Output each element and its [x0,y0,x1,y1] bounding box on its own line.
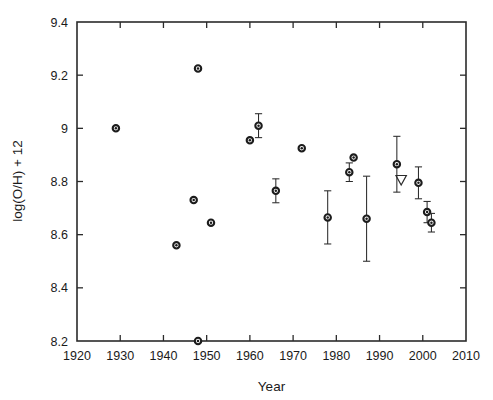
data-point [346,163,353,182]
x-tick-label: 1940 [150,349,178,363]
x-tick-label: 1920 [63,349,91,363]
y-tick-label: 8.2 [51,335,68,349]
circle-marker-center-dot [365,217,368,220]
data-point [113,125,119,131]
y-tick-label: 8.8 [51,175,68,189]
data-point [324,191,331,244]
circle-marker-center-dot [197,340,200,343]
data-point [255,114,262,138]
data-point [299,145,305,151]
circle-marker-center-dot [175,244,178,247]
circle-marker-center-dot [326,216,329,219]
circle-marker-center-dot [192,199,195,202]
data-point [191,197,197,203]
data-point [428,213,435,232]
circle-marker-center-dot [210,221,213,224]
circle-marker-center-dot [430,221,433,224]
circle-marker-center-dot [115,127,118,130]
scatter-chart-figure: 8.28.48.68.899.29.4 19201930194019501960… [0,0,493,400]
data-point [173,242,179,248]
y-tick-labels: 8.28.48.68.899.29.4 [51,16,68,349]
x-tick-label: 1970 [279,349,307,363]
x-tick-label: 1960 [236,349,264,363]
y-axis-title: log(O/H) + 12 [10,140,25,221]
y-tick-marks [77,75,466,288]
upper-limit-triangle-marker [396,175,406,185]
data-point [195,65,201,71]
data-point [272,179,279,203]
x-axis-title: Year [258,379,286,394]
circle-marker-center-dot [249,139,252,142]
data-point [393,136,400,192]
data-point [208,220,214,226]
x-tick-label: 1930 [106,349,134,363]
data-point [415,167,422,199]
circle-marker-center-dot [352,156,355,159]
plot-frame [77,22,466,341]
data-point [363,176,370,261]
y-tick-label: 8.6 [51,228,68,242]
x-tick-label: 2000 [409,349,437,363]
x-tick-label: 1950 [193,349,221,363]
data-point [247,137,253,143]
circle-marker-center-dot [257,124,260,127]
circle-marker-center-dot [301,147,304,150]
y-tick-label: 9.2 [51,69,68,83]
circle-marker-center-dot [348,171,351,174]
circle-marker-center-dot [197,67,200,70]
x-tick-label: 2010 [452,349,480,363]
chart-canvas: 8.28.48.68.899.29.4 19201930194019501960… [0,0,493,400]
x-tick-marks [120,22,423,341]
data-point [350,154,356,160]
circle-marker-center-dot [396,163,399,166]
x-tick-label: 1990 [366,349,394,363]
y-tick-label: 8.4 [51,281,68,295]
data-point [396,175,406,185]
y-tick-label: 9 [61,122,68,136]
data-point [195,338,201,344]
data-points-layer [113,65,435,344]
circle-marker-center-dot [275,190,278,193]
y-tick-label: 9.4 [51,16,68,30]
circle-marker-center-dot [417,182,420,185]
x-tick-labels: 1920193019401950196019701980199020002010 [63,349,480,363]
x-tick-label: 1980 [322,349,350,363]
